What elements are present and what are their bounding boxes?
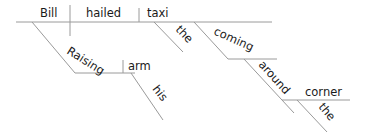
word-participle: coming	[212, 24, 256, 54]
word-participle-object-visible: arm	[128, 59, 151, 73]
word-preposition-object: corner	[305, 85, 342, 99]
word-preposition-object-modifier: the	[316, 100, 339, 123]
sentence-diagram: Bill hailed taxi Raising arm arm his the…	[0, 0, 370, 138]
word-subject: Bill	[40, 6, 57, 20]
word-verb: hailed	[86, 6, 121, 20]
word-object: taxi	[147, 6, 169, 20]
word-participle-object-modifier: his	[150, 82, 171, 104]
word-object-modifier: the	[173, 22, 196, 45]
